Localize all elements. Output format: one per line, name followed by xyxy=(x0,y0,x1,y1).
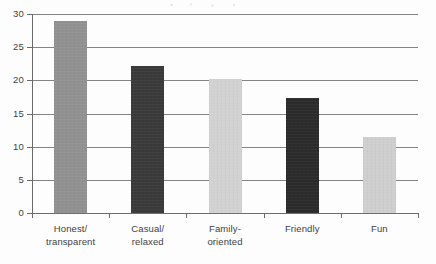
x-tick-mark-4 xyxy=(341,213,342,218)
x-tick-mark-2 xyxy=(186,213,187,218)
x-tick-label-line2: transparent xyxy=(32,236,109,249)
bar-2 xyxy=(131,66,164,213)
y-tick-label-10: 10 xyxy=(2,142,24,152)
y-tick-label-5: 5 xyxy=(2,175,24,185)
plot-area xyxy=(32,14,418,213)
bar-1 xyxy=(54,21,87,213)
x-tick-label-line1: Fun xyxy=(371,223,388,234)
y-tick-mark-20 xyxy=(27,80,33,81)
x-tick-label-2: Casual/relaxed xyxy=(109,223,186,248)
x-tick-label-1: Honest/transparent xyxy=(32,223,109,248)
x-tick-label-line1: Family- xyxy=(209,223,241,234)
bar-4 xyxy=(286,98,319,213)
x-tick-label-line2: oriented xyxy=(186,236,263,249)
x-axis-ticks xyxy=(32,213,418,219)
scan-artifact xyxy=(150,2,270,8)
x-tick-mark-5 xyxy=(418,213,419,218)
gridline-30 xyxy=(32,14,418,15)
x-tick-label-4: Friendly xyxy=(264,223,341,236)
x-axis-labels: Honest/transparentCasual/relaxedFamily-o… xyxy=(32,223,418,257)
x-tick-label-line1: Casual/ xyxy=(131,223,164,234)
y-tick-label-25: 25 xyxy=(2,42,24,52)
x-tick-label-3: Family-oriented xyxy=(186,223,263,248)
y-axis-labels: 302520151050 xyxy=(0,0,24,264)
y-tick-label-30: 30 xyxy=(2,9,24,19)
y-tick-mark-0 xyxy=(27,213,33,214)
x-tick-label-line2: relaxed xyxy=(109,236,186,249)
y-tick-label-20: 20 xyxy=(2,75,24,85)
y-tick-mark-5 xyxy=(27,180,33,181)
x-tick-mark-3 xyxy=(264,213,265,218)
y-tick-mark-30 xyxy=(27,14,33,15)
x-tick-mark-1 xyxy=(109,213,110,218)
bar-3 xyxy=(209,79,242,213)
y-tick-mark-15 xyxy=(27,114,33,115)
x-tick-label-line1: Honest/ xyxy=(54,223,87,234)
bar-chart-figure: 302520151050 Honest/transparentCasual/re… xyxy=(0,0,436,264)
x-tick-label-5: Fun xyxy=(341,223,418,236)
y-tick-label-15: 15 xyxy=(2,109,24,119)
y-tick-mark-10 xyxy=(27,147,33,148)
x-tick-label-line1: Friendly xyxy=(285,223,320,234)
gridline-25 xyxy=(32,47,418,48)
bar-5 xyxy=(363,137,396,213)
y-tick-label-0: 0 xyxy=(2,208,24,218)
y-tick-mark-25 xyxy=(27,47,33,48)
